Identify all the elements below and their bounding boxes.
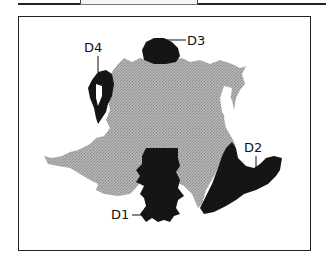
label-d3: D3: [187, 33, 205, 48]
label-d4: D4: [84, 40, 102, 55]
region-d1: [136, 148, 184, 222]
label-d1: D1: [111, 207, 129, 222]
region-d3: [142, 38, 180, 64]
diagram-canvas: D3 D4 D2 D1: [0, 0, 326, 271]
label-d2: D2: [244, 140, 262, 155]
